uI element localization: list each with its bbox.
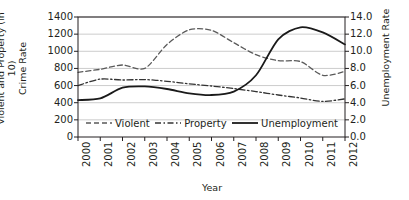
y-axis-right-tick-label: 2.0 xyxy=(350,115,366,125)
y-axis-left-tick-label: 600 xyxy=(54,81,73,91)
y-axis-right-tick-label: 4.0 xyxy=(350,98,366,108)
chart-legend: ViolentPropertyUnemployment xyxy=(86,116,338,130)
y-axis-left-tick-label: 400 xyxy=(54,98,73,108)
legend-label: Unemployment xyxy=(261,118,338,129)
x-axis-title: Year xyxy=(78,182,346,193)
x-axis-tick-label: 2008 xyxy=(260,142,270,167)
y-axis-right-tick-label: 10.0 xyxy=(350,46,372,56)
legend-swatch-unemployment-icon xyxy=(232,119,258,127)
x-axis-tick-label: 2006 xyxy=(216,142,226,167)
x-axis-tick-label: 2003 xyxy=(149,142,159,167)
y-axis-left-tick-label: 1200 xyxy=(48,29,73,39)
y-axis-right-tick-label: 8.0 xyxy=(350,63,366,73)
crime-unemployment-line-chart: Violent and Property (in 10) Crime Rate … xyxy=(0,0,409,200)
legend-item-violent[interactable]: Violent xyxy=(86,118,150,129)
legend-swatch-violent-icon xyxy=(86,119,112,127)
series-lines xyxy=(78,27,345,101)
y-axis-left-tick-label: 800 xyxy=(54,63,73,73)
x-axis-tick-label: 2004 xyxy=(171,142,181,167)
x-axis-tick-label: 2002 xyxy=(127,142,137,167)
legend-label: Violent xyxy=(115,118,150,129)
y-axis-right-tick-label: 14.0 xyxy=(350,12,372,22)
legend-swatch-property-icon xyxy=(155,119,181,127)
y-axis-left-title: Violent and Property (in 10) Crime Rate xyxy=(0,4,28,134)
y-axis-left-tick-label: 0 xyxy=(67,132,73,142)
legend-label: Property xyxy=(184,118,226,129)
x-axis-tick-label: 2001 xyxy=(104,142,114,167)
x-axis-tick-label: 2007 xyxy=(238,142,248,167)
x-axis-tick-label: 2012 xyxy=(349,142,359,167)
y-axis-right-tick-label: 6.0 xyxy=(350,81,366,91)
y-axis-left-tick-label: 1400 xyxy=(48,12,73,22)
x-axis-tick-label: 2011 xyxy=(327,142,337,167)
x-axis-tick-label: 2000 xyxy=(82,142,92,167)
x-axis-tick-label: 2009 xyxy=(282,142,292,167)
x-axis-tick-label: 2010 xyxy=(305,142,315,167)
y-axis-left-tick-label: 200 xyxy=(54,115,73,125)
gridlines xyxy=(78,17,345,120)
y-axis-right-tick-label: 0.0 xyxy=(350,132,366,142)
x-axis-tick-label: 2005 xyxy=(193,142,203,167)
y-axis-left-tick-label: 1000 xyxy=(48,46,73,56)
legend-item-unemployment[interactable]: Unemployment xyxy=(232,118,338,129)
y-axis-right-title: Unemployment Rate xyxy=(380,0,391,123)
legend-item-property[interactable]: Property xyxy=(155,118,226,129)
y-axis-right-tick-label: 12.0 xyxy=(350,29,372,39)
